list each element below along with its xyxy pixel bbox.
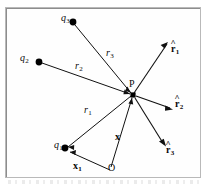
label-r3: r3 <box>106 48 114 60</box>
vector-r2 <box>42 63 130 94</box>
label-point-p: P <box>129 79 135 89</box>
field-point-marker-p <box>130 92 135 97</box>
label-q2: q2 <box>20 53 29 65</box>
vector-r3 <box>75 25 131 93</box>
label-rhat3: ^r3 <box>166 145 174 157</box>
label-rhat1: ^r1 <box>171 44 179 56</box>
charge-dot-q3 <box>70 19 77 26</box>
label-x-vector: x <box>115 132 120 142</box>
charge-dot-q2 <box>36 59 43 66</box>
label-rhat2: ^r2 <box>175 99 183 111</box>
label-r1: r1 <box>84 105 92 117</box>
vector-diagram <box>0 0 213 185</box>
label-q1: q1 <box>54 140 63 152</box>
label-x1-vector: x1 <box>73 161 82 173</box>
figure-container: q3 q2 q1 r3 r2 r1 ^r1 ^r2 ^r3 x x1 P <box>0 0 213 185</box>
page-text-artifact <box>8 180 204 184</box>
label-q3: q3 <box>61 13 70 25</box>
vector-r1 <box>68 96 131 150</box>
vector-rhat1 <box>134 42 168 93</box>
label-origin-o: O <box>108 163 115 173</box>
label-r2: r2 <box>75 61 83 73</box>
